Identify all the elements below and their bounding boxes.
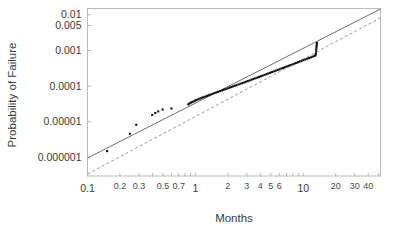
x-tick-label-0: 0.1	[80, 182, 95, 194]
data-point	[228, 87, 230, 89]
data-point	[211, 93, 213, 95]
data-point	[306, 58, 308, 60]
data-point	[302, 59, 304, 61]
x-tick-label-12: 20	[331, 181, 341, 191]
data-point	[232, 85, 234, 87]
x-axis-title: Months	[215, 212, 253, 224]
data-point	[258, 76, 260, 78]
data-point	[282, 67, 284, 69]
data-point	[289, 64, 291, 66]
x-tick-label-13: 30	[350, 181, 360, 191]
data-point	[293, 63, 295, 65]
x-tick-label-5: 1	[192, 182, 198, 194]
data-point	[315, 50, 317, 52]
data-point	[249, 79, 251, 81]
data-point	[271, 71, 273, 73]
y-tick-label-2: 0.001	[55, 44, 81, 56]
x-tick-label-4: 0.7	[172, 181, 185, 191]
data-point	[312, 56, 314, 58]
data-point	[286, 65, 288, 67]
data-point	[315, 52, 317, 54]
data-point	[316, 42, 318, 44]
data-point	[275, 70, 277, 72]
data-point	[157, 110, 159, 112]
y-tick-label-1: 0.005	[55, 19, 81, 31]
data-point	[219, 90, 221, 92]
probability-plot-figure: 0.010.0050.0010.00010.000010.000001 0.10…	[0, 0, 398, 229]
fit-lines	[88, 9, 381, 174]
data-point	[310, 56, 312, 58]
x-tick-label-9: 5	[268, 181, 273, 191]
data-point	[237, 83, 239, 85]
data-point	[247, 80, 249, 82]
data-point	[204, 96, 206, 98]
x-axis-tick-labels: 0.10.20.30.50.712345610203040	[80, 181, 373, 194]
data-point	[278, 68, 280, 70]
data-point	[213, 92, 215, 94]
data-point	[151, 114, 153, 116]
data-point	[288, 65, 290, 67]
x-tick-label-2: 0.3	[133, 181, 146, 191]
data-point	[267, 72, 269, 74]
x-tick-label-7: 3	[244, 181, 249, 191]
data-point	[209, 93, 211, 95]
data-point	[284, 66, 286, 68]
data-points	[106, 42, 318, 152]
y-tick-label-4: 0.00001	[44, 115, 82, 127]
data-point	[135, 124, 137, 126]
data-point	[170, 107, 172, 109]
data-point	[251, 79, 253, 81]
data-point	[202, 96, 204, 98]
chart-canvas: 0.010.0050.0010.00010.000010.000001 0.10…	[0, 0, 398, 229]
data-point	[236, 84, 238, 86]
data-point	[195, 99, 197, 101]
data-point	[308, 57, 310, 59]
data-point	[106, 150, 108, 152]
data-point	[260, 75, 262, 77]
data-point	[280, 68, 282, 70]
data-point	[226, 87, 228, 89]
x-tick-label-6: 2	[225, 181, 230, 191]
data-point	[239, 83, 241, 85]
data-point	[269, 72, 271, 74]
data-point	[262, 75, 264, 77]
data-point	[273, 70, 275, 72]
data-point	[252, 78, 254, 80]
data-point	[206, 95, 208, 97]
data-point	[297, 61, 299, 63]
x-tick-label-10: 6	[277, 181, 282, 191]
data-point	[217, 91, 219, 93]
data-point	[243, 81, 245, 83]
data-point	[154, 112, 156, 114]
y-axis-tick-labels: 0.010.0050.0010.00010.000010.000001	[38, 8, 82, 163]
data-point	[299, 60, 301, 62]
y-axis-ticks	[88, 15, 92, 158]
data-point	[162, 108, 164, 110]
data-point	[304, 58, 306, 60]
data-point	[221, 89, 223, 91]
data-point	[129, 133, 131, 135]
x-tick-label-14: 40	[363, 181, 373, 191]
y-tick-label-3: 0.0001	[49, 80, 81, 92]
data-point	[224, 88, 226, 90]
y-axis-title: Probability of Failure	[6, 43, 18, 148]
data-point	[254, 77, 256, 79]
data-point	[265, 73, 267, 75]
data-point	[301, 60, 303, 62]
y-tick-label-5: 0.000001	[38, 151, 82, 163]
data-point	[245, 81, 247, 83]
data-point	[295, 62, 297, 64]
x-tick-label-3: 0.5	[157, 181, 170, 191]
fit-line-solid	[88, 9, 381, 158]
data-point	[291, 63, 293, 65]
x-tick-label-8: 4	[258, 181, 263, 191]
data-point	[264, 74, 266, 76]
data-point	[277, 69, 279, 71]
data-point	[241, 82, 243, 84]
x-tick-label-1: 0.2	[114, 181, 127, 191]
fit-line-dashed	[88, 18, 381, 174]
data-point	[256, 77, 258, 79]
data-point	[230, 86, 232, 88]
data-point	[315, 48, 317, 50]
x-tick-label-11: 10	[297, 182, 309, 194]
